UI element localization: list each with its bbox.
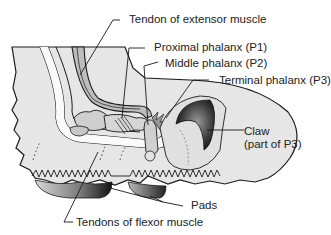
label-flexor-tendons: Tendons of flexor muscle <box>76 216 203 229</box>
label-proximal-phalanx: Proximal phalanx (P1) <box>154 41 267 54</box>
label-pads: Pads <box>191 199 217 212</box>
label-claw: Claw <box>244 125 270 137</box>
label-claw-sub: (part of P3) <box>244 138 302 150</box>
label-middle-phalanx: Middle phalanx (P2) <box>165 57 267 70</box>
label-terminal-phalanx: Terminal phalanx (P3) <box>219 74 331 87</box>
label-extensor-tendon: Tendon of extensor muscle <box>129 13 266 26</box>
